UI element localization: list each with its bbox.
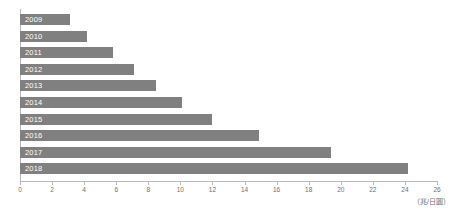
x-axis-tick-label: 16 xyxy=(273,186,280,193)
bar-category-label: 2017 xyxy=(25,147,43,158)
unit-label: （兆/日圓） xyxy=(413,196,450,206)
bar-category-label: 2013 xyxy=(25,80,43,91)
bar-category-label: 2011 xyxy=(25,47,42,58)
bar xyxy=(20,163,408,174)
x-axis-tick-label: 4 xyxy=(82,186,86,193)
x-axis-tick xyxy=(116,181,117,185)
x-axis-tick xyxy=(52,181,53,185)
bar-category-label: 2009 xyxy=(25,14,43,25)
x-axis-tick-label: 24 xyxy=(401,186,408,193)
x-axis-tick xyxy=(84,181,85,185)
x-axis-tick xyxy=(277,181,278,185)
x-axis-tick xyxy=(20,181,21,185)
bar-category-label: 2014 xyxy=(25,97,43,108)
x-axis-tick-label: 8 xyxy=(146,186,150,193)
bar xyxy=(20,130,259,141)
x-axis-tick-label: 12 xyxy=(209,186,216,193)
x-axis-line xyxy=(20,181,438,182)
plot-area: 2009201020112012201320142015201620172018… xyxy=(0,0,458,213)
x-axis-tick xyxy=(309,181,310,185)
x-axis-tick-label: 20 xyxy=(337,186,344,193)
bar-category-label: 2015 xyxy=(25,114,43,125)
x-axis-tick xyxy=(373,181,374,185)
x-axis-tick xyxy=(180,181,181,185)
x-axis-tick-label: 6 xyxy=(114,186,118,193)
x-axis-tick xyxy=(405,181,406,185)
x-axis-tick-label: 10 xyxy=(177,186,184,193)
x-axis-tick-label: 18 xyxy=(305,186,312,193)
x-axis-tick xyxy=(212,181,213,185)
bar-chart: 2009201020112012201320142015201620172018… xyxy=(0,0,458,213)
x-axis-tick xyxy=(245,181,246,185)
bar-category-label: 2012 xyxy=(25,64,43,75)
bar xyxy=(20,97,182,108)
x-axis-tick-label: 2 xyxy=(50,186,54,193)
x-axis-tick xyxy=(148,181,149,185)
bar-category-label: 2010 xyxy=(25,31,43,42)
x-axis-tick-label: 0 xyxy=(18,186,22,193)
x-axis-tick xyxy=(341,181,342,185)
x-axis-tick-label: 26 xyxy=(433,186,440,193)
bar xyxy=(20,147,331,158)
bars-layer: 2009201020112012201320142015201620172018 xyxy=(0,0,458,181)
x-axis-tick-label: 14 xyxy=(241,186,248,193)
bar-category-label: 2016 xyxy=(25,130,43,141)
bar xyxy=(20,114,212,125)
bar-category-label: 2018 xyxy=(25,163,43,174)
x-axis-tick xyxy=(437,181,438,185)
x-axis-tick-label: 22 xyxy=(369,186,376,193)
